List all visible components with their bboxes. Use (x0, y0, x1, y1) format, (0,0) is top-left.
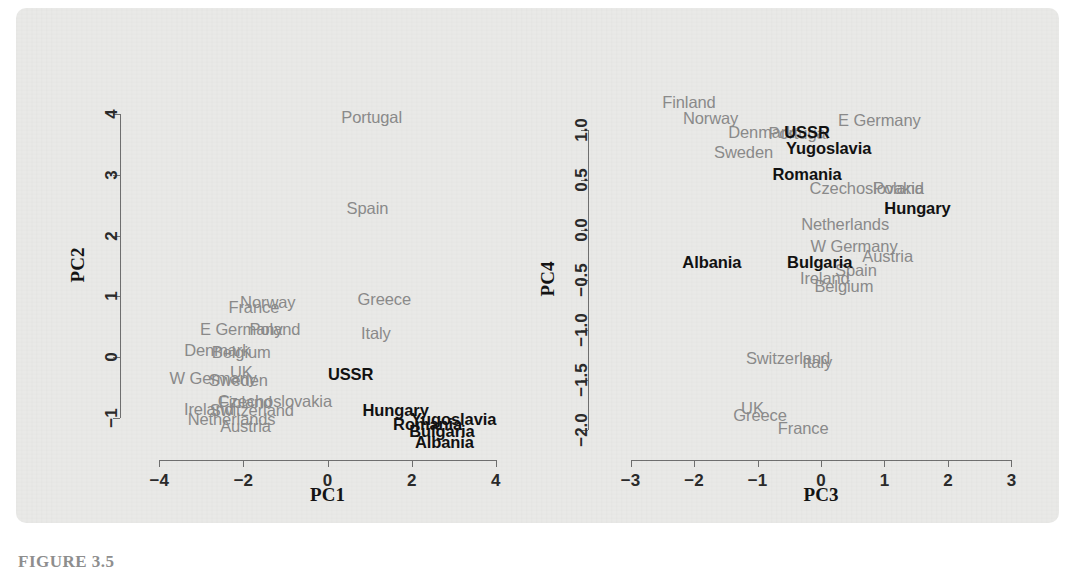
data-point-label: Bulgaria (787, 253, 852, 272)
data-point-label: Poland (250, 320, 301, 339)
x-axis-tick-label: −3 (621, 471, 640, 491)
data-point-label: Albania (415, 432, 474, 451)
y-axis-title: PC4 (537, 249, 559, 309)
figure-page: −4−2024PC1−101234PC2PortugalSpainGreeceF… (0, 0, 1067, 574)
x-axis-tick (496, 460, 497, 467)
y-axis-tick-label: 3 (102, 145, 122, 205)
y-axis-tick-label: 0 (102, 327, 122, 387)
y-axis-title: PC2 (67, 235, 89, 295)
data-point-label: USSR (328, 364, 373, 383)
data-point-label: France (778, 419, 829, 438)
x-axis-tick (948, 460, 949, 467)
data-point-label: Belgium (212, 343, 271, 362)
x-axis-tick (328, 460, 329, 467)
scatter-plot-pc1-pc2: −4−2024PC1−101234PC2PortugalSpainGreeceF… (16, 8, 546, 523)
y-axis-tick-label: 1 (102, 266, 122, 326)
data-point-label: Yugoslavia (786, 139, 871, 158)
data-point-label: Italy (802, 353, 832, 372)
data-point-label: Hungary (884, 199, 950, 218)
x-axis-tick-label: 2 (943, 471, 952, 491)
x-axis-tick (884, 460, 885, 467)
data-point-label: Norway (240, 293, 295, 312)
x-axis-tick-label: −2 (234, 471, 253, 491)
data-point-label: Greece (358, 290, 412, 309)
data-point-label: Spain (347, 199, 389, 218)
x-axis-tick-label: 4 (491, 471, 500, 491)
data-point-label: Poland (873, 179, 924, 198)
data-point-label: Belgium (814, 277, 873, 296)
x-axis-title: PC3 (804, 484, 839, 506)
figure-panel: −4−2024PC1−101234PC2PortugalSpainGreeceF… (16, 8, 1059, 523)
x-axis-tick-label: 3 (1007, 471, 1016, 491)
data-point-label: Netherlands (801, 215, 889, 234)
data-point-label: Sweden (209, 371, 268, 390)
data-point-label: Austria (220, 417, 271, 436)
data-point-label: E Germany (838, 111, 921, 130)
x-axis-title: PC1 (310, 484, 345, 506)
x-axis-tick-label: 1 (880, 471, 889, 491)
x-axis-tick (412, 460, 413, 467)
x-axis-tick-label: −4 (150, 471, 169, 491)
x-axis-tick (159, 460, 160, 467)
data-point-label: Portugal (341, 108, 402, 127)
data-point-label: Italy (361, 323, 391, 342)
y-axis-tick-label: 1.0 (572, 100, 592, 160)
x-axis-tick (631, 460, 632, 467)
x-axis-tick (758, 460, 759, 467)
x-axis-tick-label: −2 (684, 471, 703, 491)
y-axis-tick-label: 4 (102, 84, 122, 144)
x-axis-tick (821, 460, 822, 467)
data-point-label: Romania (773, 165, 842, 184)
y-axis-tick-label: 2 (102, 206, 122, 266)
figure-caption: FIGURE 3.5 (18, 552, 115, 572)
x-axis-tick (1011, 460, 1012, 467)
y-axis-tick-label: −1 (102, 388, 122, 448)
scatter-plot-pc3-pc4: −3−2−10123PC3−2.0−1.5−1.0−0.50.00.51.0PC… (540, 8, 1059, 523)
x-axis-tick (694, 460, 695, 467)
data-point-label: Sweden (714, 143, 773, 162)
data-point-label: Albania (682, 253, 741, 272)
x-axis-tick-label: 2 (407, 471, 416, 491)
x-axis-tick-label: −1 (748, 471, 767, 491)
x-axis-tick (243, 460, 244, 467)
